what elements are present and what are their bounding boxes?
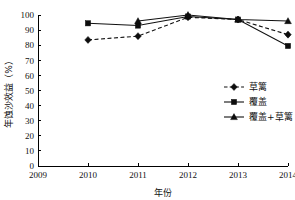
x-tick-label: 2014 [279,170,295,180]
y-axis-title: 年蚀沙效益（%） [3,56,14,128]
y-tick-label: 80 [25,40,35,50]
chart-legend: 草篱覆盖覆盖+草篱 [224,81,293,122]
data-point-square [285,43,290,48]
x-tick-label: 2011 [129,170,147,180]
data-point-square [231,99,236,104]
x-tick-label: 2009 [29,170,48,180]
x-tick-label: 2010 [79,170,98,180]
x-tick-label: 2012 [179,170,197,180]
y-tick-label: 30 [25,116,35,126]
data-point-square [85,21,90,26]
y-axis: 0102030405060708090100 [21,10,42,171]
data-point-diamond [135,33,142,40]
x-axis-title: 年份 [154,187,172,198]
x-tick-label: 2013 [229,170,248,180]
y-tick-label: 100 [21,10,35,20]
y-tick-label: 90 [25,25,35,35]
line-chart: 0102030405060708090100 20092010201120122… [0,0,295,200]
y-tick-label: 40 [25,101,35,111]
y-tick-label: 50 [25,86,35,96]
series-layer [85,12,292,49]
legend-label: 草篱 [249,81,267,92]
chart-container: 0102030405060708090100 20092010201120122… [0,0,295,200]
data-point-diamond [231,83,238,90]
data-point-diamond [285,31,292,38]
y-tick-label: 60 [25,71,35,81]
legend-label: 覆盖 [249,96,267,107]
series-2 [85,14,290,49]
data-point-diamond [85,36,92,43]
y-tick-label: 10 [25,146,35,156]
legend-label: 覆盖+草篱 [249,111,293,122]
x-axis: 200920102011201220132014 [29,163,295,180]
y-tick-label: 20 [25,131,35,141]
y-tick-label: 70 [25,56,35,66]
